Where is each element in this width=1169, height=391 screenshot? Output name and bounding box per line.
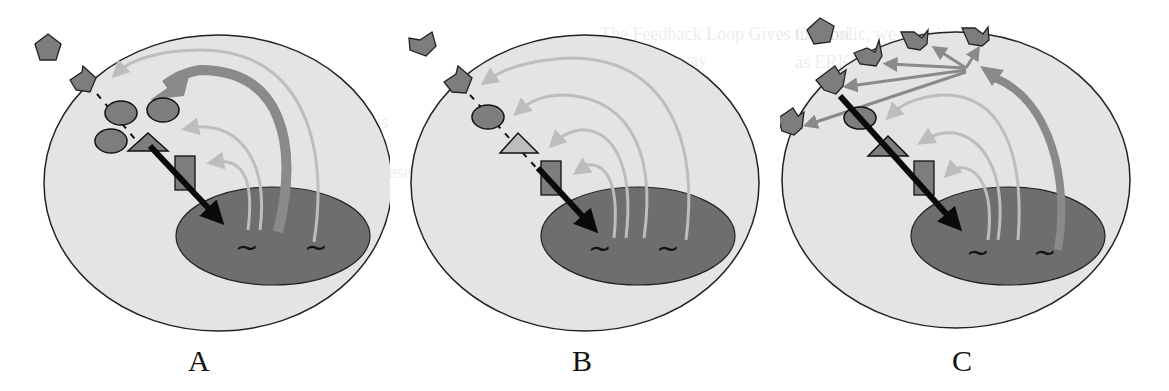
adaptor-ellipse [105,101,137,125]
gene-glyph: ~ [656,232,679,265]
panel-label-b: B [572,344,592,378]
gene-glyph: ~ [966,236,989,269]
panel-b: ~ ~ B [390,0,780,391]
panel-b-diagram: ~ ~ [390,0,780,391]
panel-c: ~ ~ C [780,0,1169,391]
panel-label-a: A [188,344,210,378]
ligand-pentagon [409,32,436,56]
gene-glyph: ~ [304,231,327,264]
adaptor-ellipse [95,129,127,153]
gene-glyph: ~ [1033,236,1056,269]
receptor [444,66,472,93]
gene-glyph: ~ [235,231,258,264]
adaptor-ellipse [147,98,179,122]
nucleus [911,187,1105,285]
adaptor-ellipse [472,105,504,129]
ligand-pentagon [35,34,61,60]
panel-a-diagram: ~ ~ [0,0,390,391]
gene-glyph: ~ [588,232,611,265]
panel-a: ~ ~ A [0,0,390,391]
panel-label-c: C [952,344,972,378]
panel-c-diagram: ~ ~ [780,0,1169,391]
ligand-pentagon [807,18,834,44]
receptor [70,66,96,92]
